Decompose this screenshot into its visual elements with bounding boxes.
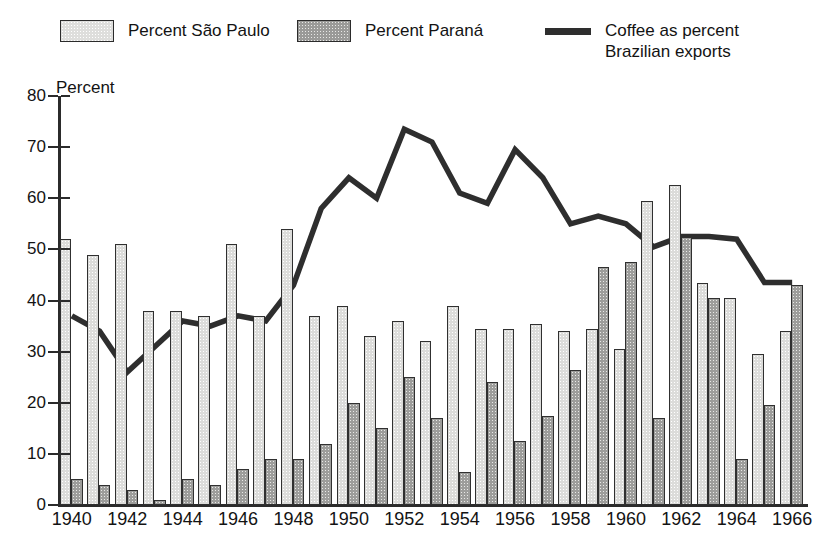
y-axis-label: 20	[6, 394, 46, 411]
y-axis-tick-inner	[61, 402, 70, 404]
x-axis-label-1964: 1964	[717, 509, 757, 529]
x-axis-label-1946: 1946	[218, 509, 258, 529]
y-axis-tick	[48, 453, 58, 455]
bar-parana-1946	[237, 469, 249, 505]
bar-parana-1952	[404, 377, 416, 505]
bar-sao-paulo-1960	[614, 349, 626, 505]
bar-parana-1951	[376, 428, 388, 505]
bar-sao-paulo-1957	[530, 324, 542, 505]
bar-parana-1958	[570, 370, 582, 505]
bar-parana-1955	[487, 382, 499, 505]
bar-parana-1949	[320, 444, 332, 505]
bar-sao-paulo-1952	[392, 321, 404, 505]
bar-parana-1943	[154, 500, 166, 505]
bar-parana-1944	[182, 479, 194, 505]
x-axis-label-1956: 1956	[495, 509, 535, 529]
bar-sao-paulo-1958	[558, 331, 570, 505]
bar-sao-paulo-1949	[309, 316, 321, 505]
chart-root: Percent São Paulo Percent Paraná Coffee …	[0, 0, 820, 544]
y-axis-tick-inner	[61, 146, 70, 148]
bar-sao-paulo-1962	[669, 185, 681, 505]
bar-parana-1959	[598, 267, 610, 505]
x-axis-labels: 1940194219441946194819501952195419561958…	[0, 509, 820, 539]
x-axis-label-1952: 1952	[384, 509, 424, 529]
chart-legend: Percent São Paulo Percent Paraná Coffee …	[0, 0, 820, 78]
legend-item-sao-paulo: Percent São Paulo	[60, 20, 270, 42]
legend-swatch-parana-icon	[297, 20, 351, 42]
y-axis-tick-inner	[61, 95, 70, 97]
bar-sao-paulo-1945	[198, 316, 210, 505]
bar-sao-paulo-1955	[475, 329, 487, 505]
x-axis-label-1942: 1942	[107, 509, 147, 529]
bar-parana-1945	[210, 485, 222, 505]
y-axis-tick	[48, 248, 58, 250]
bar-parana-1940	[71, 479, 83, 505]
bar-sao-paulo-1963	[697, 283, 709, 505]
y-axis-tick	[48, 351, 58, 353]
bar-parana-1964	[736, 459, 748, 505]
y-axis-tick	[48, 197, 58, 199]
y-axis-tick	[48, 300, 58, 302]
x-axis-label-1954: 1954	[440, 509, 480, 529]
bar-parana-1961	[653, 418, 665, 505]
bar-sao-paulo-1951	[364, 336, 376, 505]
bar-parana-1956	[514, 441, 526, 505]
bar-sao-paulo-1956	[503, 329, 515, 505]
bar-parana-1942	[127, 490, 139, 505]
bar-sao-paulo-1950	[337, 306, 349, 505]
bar-sao-paulo-1946	[226, 244, 238, 505]
bar-parana-1957	[542, 416, 554, 505]
bar-sao-paulo-1964	[724, 298, 736, 505]
bar-sao-paulo-1953	[420, 341, 432, 505]
x-axis-label-1940: 1940	[52, 509, 92, 529]
legend-swatch-line-icon	[545, 28, 591, 35]
bar-parana-1954	[459, 472, 471, 505]
bar-sao-paulo-1959	[586, 329, 598, 505]
y-axis-label: 40	[6, 292, 46, 309]
y-axis-tick-inner	[61, 300, 70, 302]
bar-sao-paulo-1944	[170, 311, 182, 505]
y-axis-label: 60	[6, 189, 46, 206]
legend-item-parana: Percent Paraná	[297, 20, 483, 42]
y-axis-label: 50	[6, 240, 46, 257]
y-axis-tick-inner	[61, 197, 70, 199]
y-axis-tick-inner	[61, 248, 70, 250]
bar-sao-paulo-1954	[447, 306, 459, 505]
bar-parana-1953	[431, 418, 443, 505]
bar-sao-paulo-1965	[752, 354, 764, 505]
bar-parana-1965	[764, 405, 776, 505]
bar-sao-paulo-1948	[281, 229, 293, 505]
legend-swatch-sao-paulo-icon	[60, 20, 114, 42]
legend-label-parana: Percent Paraná	[365, 20, 483, 41]
bar-sao-paulo-1940	[60, 239, 72, 505]
y-axis-tick	[48, 95, 58, 97]
bar-sao-paulo-1947	[253, 316, 265, 505]
bar-parana-1950	[348, 403, 360, 505]
x-axis-label-1966: 1966	[772, 509, 812, 529]
bar-parana-1966	[791, 285, 803, 505]
bar-parana-1962	[681, 237, 693, 505]
y-axis-tick-inner	[61, 453, 70, 455]
y-axis-label: 0	[6, 496, 46, 513]
x-axis-label-1944: 1944	[163, 509, 203, 529]
x-axis-label-1948: 1948	[273, 509, 313, 529]
legend-label-coffee-exports: Coffee as percent Brazilian exports	[605, 20, 739, 62]
bar-parana-1963	[708, 298, 720, 505]
y-axis-label: 10	[6, 445, 46, 462]
x-axis-label-1962: 1962	[661, 509, 701, 529]
bar-sao-paulo-1942	[115, 244, 127, 505]
legend-item-coffee-exports: Coffee as percent Brazilian exports	[545, 20, 739, 62]
bar-sao-paulo-1966	[780, 331, 792, 505]
bar-sao-paulo-1941	[87, 255, 99, 506]
bar-sao-paulo-1961	[641, 201, 653, 505]
x-axis-label-1960: 1960	[606, 509, 646, 529]
y-axis-tick	[48, 504, 58, 506]
bar-sao-paulo-1943	[143, 311, 155, 505]
plot-area	[58, 96, 806, 505]
y-axis-label: 80	[6, 87, 46, 104]
bar-parana-1948	[293, 459, 305, 505]
x-axis-label-1950: 1950	[329, 509, 369, 529]
y-axis-tick	[48, 146, 58, 148]
y-axis-label: 70	[6, 138, 46, 155]
y-axis-tick-inner	[61, 351, 70, 353]
